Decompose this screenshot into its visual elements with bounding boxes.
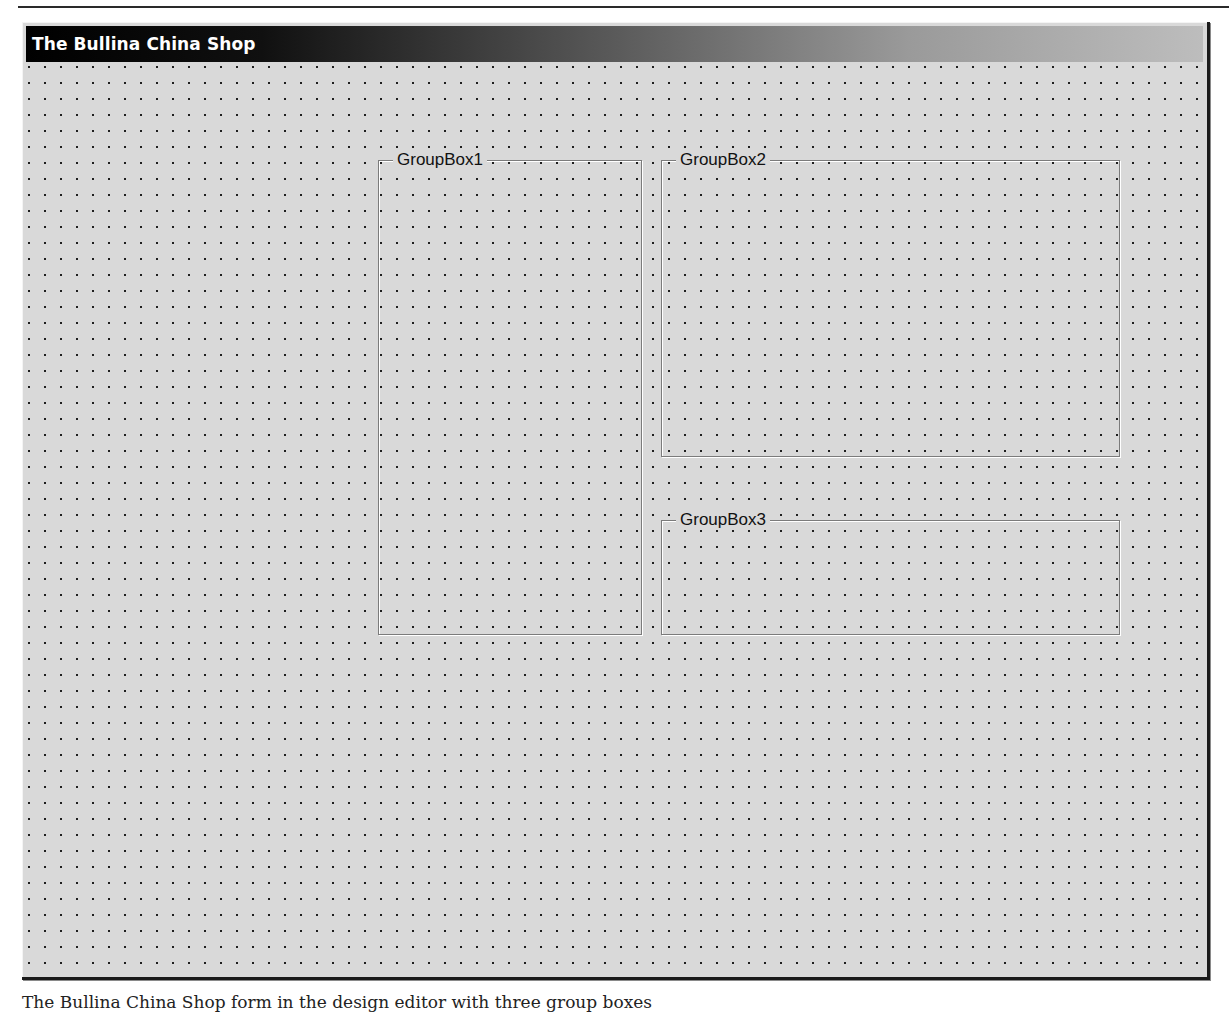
group-box-1[interactable]: GroupBox1 (378, 160, 642, 635)
group-box-3-label: GroupBox3 (676, 510, 770, 530)
figure-caption: The Bullina China Shop form in the desig… (22, 992, 652, 1012)
page-top-rule (18, 6, 1229, 8)
group-box-3[interactable]: GroupBox3 (661, 520, 1120, 635)
form-title-bar[interactable]: The Bullina China Shop (26, 26, 1203, 62)
form-title: The Bullina China Shop (26, 34, 255, 54)
group-box-2-label: GroupBox2 (676, 150, 770, 170)
group-box-2[interactable]: GroupBox2 (661, 160, 1120, 457)
form-designer-window[interactable]: The Bullina China Shop GroupBox1 GroupBo… (22, 22, 1210, 980)
group-box-1-label: GroupBox1 (393, 150, 487, 170)
